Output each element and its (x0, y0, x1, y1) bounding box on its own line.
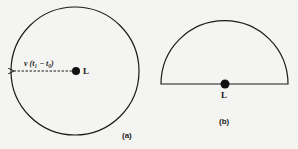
caption-b: (b) (219, 117, 229, 126)
point-label-b: L (221, 90, 227, 100)
point-label-a: L (83, 66, 89, 76)
semicircle-b (161, 21, 288, 84)
figure-canvas (0, 0, 298, 149)
radius-label: v (t₁ − t₀) (24, 59, 54, 68)
point-l-a (72, 67, 80, 75)
point-l-b (221, 80, 230, 89)
caption-a: (a) (122, 131, 132, 140)
